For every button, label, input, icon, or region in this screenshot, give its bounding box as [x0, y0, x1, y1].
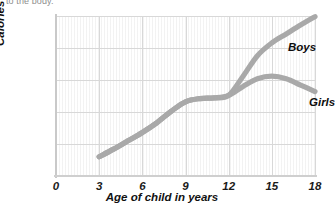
- plot-area: Boys Girls: [56, 16, 315, 176]
- line-girls: [99, 76, 315, 157]
- cutoff-running-text: to the body.: [6, 0, 54, 6]
- series-label-boys: Boys: [288, 41, 316, 53]
- x-axis-title: Age of child in years: [0, 191, 324, 203]
- series-label-girls: Girls: [309, 96, 335, 108]
- series-curves: [56, 16, 315, 176]
- y-axis-title: Calories per day: [0, 0, 6, 46]
